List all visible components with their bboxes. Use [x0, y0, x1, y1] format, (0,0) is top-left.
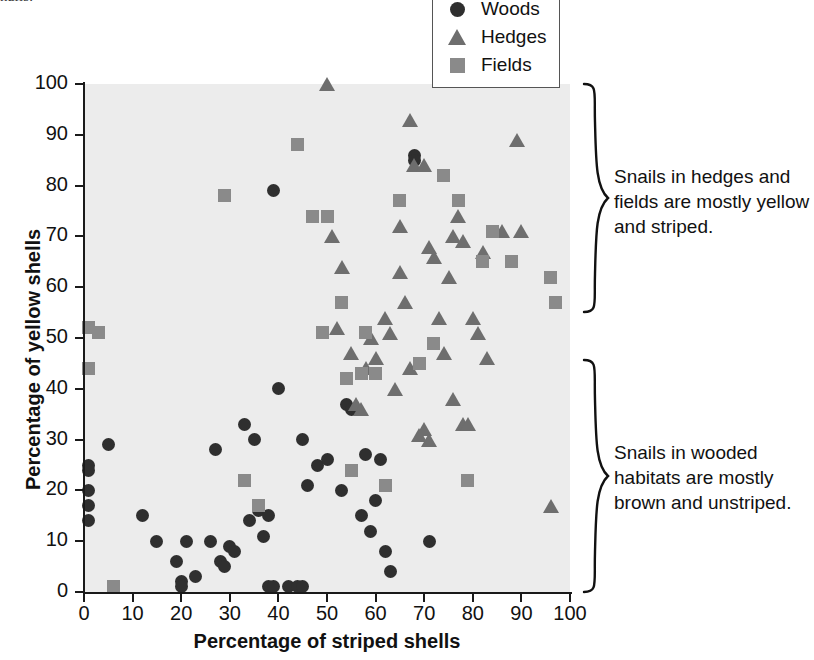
- caption-fragment: nails.: [0, 0, 33, 5]
- data-point-fields: [452, 194, 465, 207]
- data-point-hedges: [470, 326, 486, 340]
- filled-triangle-marker-icon: [445, 29, 469, 45]
- y-axis-tick-label: 90: [8, 122, 68, 145]
- data-point-hedges: [445, 392, 461, 406]
- data-point-hedges: [387, 382, 403, 396]
- data-point-fields: [413, 357, 426, 370]
- data-point-fields: [218, 189, 231, 202]
- x-axis-tick: [180, 594, 182, 602]
- x-axis-tick: [132, 594, 134, 602]
- y-axis-tick-label: 10: [8, 528, 68, 551]
- data-point-woods: [238, 418, 251, 431]
- y-axis-tick: [75, 134, 83, 136]
- data-point-hedges: [421, 433, 437, 447]
- data-point-woods: [257, 530, 270, 543]
- data-point-woods: [423, 535, 436, 548]
- legend-label-woods: Woods: [481, 0, 540, 20]
- x-axis-tick: [83, 594, 85, 602]
- data-point-hedges: [441, 270, 457, 284]
- data-point-hedges: [426, 250, 442, 264]
- data-point-woods: [379, 545, 392, 558]
- filled-circle-marker-icon: [445, 2, 469, 17]
- x-axis-tick: [520, 594, 522, 602]
- legend-item-woods[interactable]: Woods: [445, 0, 549, 23]
- data-point-fields: [291, 138, 304, 151]
- woods-annotation: Snails in wooded habitats are mostly bro…: [614, 440, 814, 515]
- data-point-hedges: [377, 311, 393, 325]
- data-point-woods: [180, 535, 193, 548]
- data-point-fields: [437, 169, 450, 182]
- data-point-hedges: [392, 219, 408, 233]
- data-point-hedges: [319, 77, 335, 91]
- data-point-fields: [476, 255, 489, 268]
- data-point-hedges: [353, 402, 369, 416]
- data-point-hedges: [460, 417, 476, 431]
- x-axis-tick: [326, 594, 328, 602]
- data-point-hedges: [397, 295, 413, 309]
- data-point-hedges: [368, 351, 384, 365]
- data-point-woods: [170, 555, 183, 568]
- data-point-hedges: [324, 229, 340, 243]
- data-point-woods: [384, 565, 397, 578]
- x-axis-tick: [569, 594, 571, 602]
- x-axis-tick: [375, 594, 377, 602]
- data-point-woods: [102, 438, 115, 451]
- x-axis-title: Percentage of striped shells: [0, 630, 654, 653]
- data-point-fields: [335, 296, 348, 309]
- data-point-fields: [355, 367, 368, 380]
- data-point-hedges: [431, 311, 447, 325]
- y-axis-tick: [75, 388, 83, 390]
- x-axis-tick-label: 100: [540, 602, 600, 625]
- y-axis-tick-label: 0: [8, 579, 68, 602]
- y-axis-tick: [75, 83, 83, 85]
- data-point-fields: [549, 296, 562, 309]
- y-axis-tick: [75, 439, 83, 441]
- upper-brace-icon: [578, 82, 614, 314]
- data-point-fields: [316, 326, 329, 339]
- y-axis-tick: [75, 337, 83, 339]
- lower-brace-icon: [578, 358, 614, 594]
- data-point-woods: [335, 484, 348, 497]
- data-point-fields: [252, 499, 265, 512]
- data-point-woods: [209, 443, 222, 456]
- data-point-hedges: [455, 234, 471, 248]
- data-point-woods: [228, 545, 241, 558]
- legend-item-hedges[interactable]: Hedges: [445, 23, 549, 51]
- legend-item-fields[interactable]: Fields: [445, 51, 549, 79]
- y-axis-tick: [75, 489, 83, 491]
- data-point-hedges: [402, 113, 418, 127]
- y-axis-tick: [75, 540, 83, 542]
- x-axis-tick: [229, 594, 231, 602]
- data-point-fields: [369, 367, 382, 380]
- data-point-woods: [204, 535, 217, 548]
- data-point-fields: [461, 474, 474, 487]
- legend-label-hedges: Hedges: [481, 26, 547, 48]
- data-point-hedges: [343, 346, 359, 360]
- data-point-fields: [379, 479, 392, 492]
- data-point-fields: [544, 271, 557, 284]
- data-point-fields: [321, 210, 334, 223]
- data-point-hedges: [450, 209, 466, 223]
- y-axis-tick-label: 80: [8, 173, 68, 196]
- y-axis-tick: [75, 591, 83, 593]
- x-axis-tick: [277, 594, 279, 602]
- data-point-fields: [486, 225, 499, 238]
- data-point-hedges: [543, 499, 559, 513]
- data-point-hedges: [392, 265, 408, 279]
- data-point-hedges: [509, 133, 525, 147]
- legend: Woods Hedges Fields: [432, 0, 560, 88]
- data-point-fields: [427, 337, 440, 350]
- data-point-woods: [355, 509, 368, 522]
- data-point-fields: [306, 210, 319, 223]
- data-point-woods: [364, 525, 377, 538]
- y-axis-tick: [75, 235, 83, 237]
- y-axis-title: Percentage of yellow shells: [22, 229, 45, 490]
- data-point-hedges: [329, 321, 345, 335]
- y-axis-tick: [75, 286, 83, 288]
- data-point-fields: [359, 326, 372, 339]
- legend-label-fields: Fields: [481, 54, 532, 76]
- data-point-hedges: [334, 260, 350, 274]
- data-point-fields: [92, 326, 105, 339]
- x-axis-tick: [423, 594, 425, 602]
